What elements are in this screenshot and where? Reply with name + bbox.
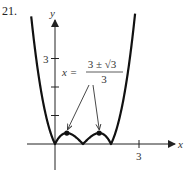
annotation-arrow	[93, 85, 99, 129]
annotation-denominator: 3	[101, 73, 107, 85]
marked-point	[64, 130, 69, 135]
graph: x y 33 x = 3 ± √3 3	[0, 0, 189, 179]
annotation-lhs: x =	[61, 66, 77, 78]
x-axis-label: x	[177, 138, 183, 150]
y-axis-label: y	[49, 7, 55, 19]
marked-point	[97, 130, 102, 135]
annotation: x = 3 ± √3 3	[61, 58, 123, 129]
annotation-arrow	[68, 85, 89, 129]
annotation-numerator: 3 ± √3	[88, 58, 117, 70]
svg-text:3: 3	[136, 150, 142, 162]
svg-text:3: 3	[43, 53, 49, 65]
function-curve	[31, 14, 135, 144]
